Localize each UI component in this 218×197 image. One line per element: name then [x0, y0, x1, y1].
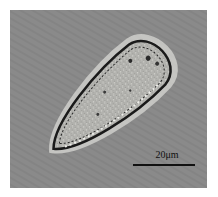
micrograph — [10, 10, 207, 188]
scale-bar — [133, 164, 195, 166]
figure-frame: 20μm — [0, 0, 218, 197]
cell-illustration — [10, 10, 207, 188]
scale-bar-label: 20μm — [145, 149, 189, 161]
